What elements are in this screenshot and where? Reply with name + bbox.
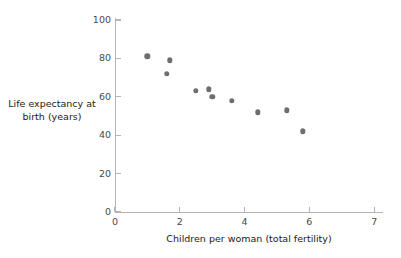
y-tick-mark xyxy=(116,211,121,212)
x-tick-mark xyxy=(309,207,310,212)
data-point xyxy=(229,98,234,103)
y-tick-label: 100 xyxy=(85,14,111,25)
x-axis-title: Children per woman (total fertility) xyxy=(108,233,390,244)
y-axis-line xyxy=(115,18,116,213)
x-tick-mark xyxy=(244,207,245,212)
data-point xyxy=(193,88,198,93)
x-tick-label: 2 xyxy=(168,216,192,227)
x-axis-line xyxy=(115,212,383,213)
data-point xyxy=(167,58,172,63)
y-tick-mark xyxy=(116,135,121,136)
data-point xyxy=(209,94,214,99)
x-tick-label: 4 xyxy=(233,216,257,227)
y-tick-mark xyxy=(116,58,121,59)
data-point xyxy=(164,71,169,76)
y-tick-mark xyxy=(116,96,121,97)
data-point xyxy=(300,129,305,134)
y-axis-title-line-2: birth (years) xyxy=(23,111,82,122)
x-tick-label: 0 xyxy=(103,216,127,227)
y-tick-mark xyxy=(116,173,121,174)
data-point xyxy=(145,54,150,59)
x-tick-label: 6 xyxy=(297,216,321,227)
x-tick-label: 7 xyxy=(362,216,386,227)
y-tick-label: 80 xyxy=(85,52,111,63)
x-tick-mark xyxy=(114,207,115,212)
data-point xyxy=(284,108,289,113)
y-tick-label: 20 xyxy=(85,168,111,179)
y-axis-title-line-1: Life expectancy at xyxy=(8,98,96,109)
x-tick-mark xyxy=(179,207,180,212)
x-tick-mark xyxy=(374,207,375,212)
y-tick-label: 40 xyxy=(85,129,111,140)
y-tick-label: 60 xyxy=(85,91,111,102)
scatter-plot-figure: Life expectancy at birth (years) 0204060… xyxy=(0,0,401,258)
data-point xyxy=(206,86,211,91)
y-tick-mark xyxy=(116,19,121,20)
data-point xyxy=(255,109,260,114)
